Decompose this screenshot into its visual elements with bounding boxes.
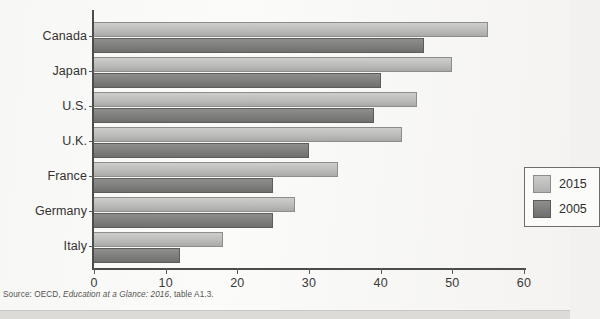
x-tick-label: 50 <box>432 276 472 290</box>
category-label: U.K. <box>62 134 87 148</box>
x-tick-label: 20 <box>217 276 257 290</box>
bar-2015 <box>94 197 295 212</box>
bar-2005 <box>94 143 309 158</box>
bar-2005 <box>94 108 374 123</box>
x-tick-mark <box>381 268 382 274</box>
bar-2005 <box>94 213 273 228</box>
category-label: Italy <box>64 239 87 253</box>
x-tick-label: 30 <box>289 276 329 290</box>
bar-2005 <box>94 178 273 193</box>
category-label: Germany <box>35 204 87 218</box>
category-label: France <box>47 169 87 183</box>
x-tick-mark <box>166 268 167 274</box>
legend-swatch-2005 <box>533 200 551 218</box>
x-tick-label: 0 <box>74 276 114 290</box>
source-note: Source: OECD, Education at a Glance: 201… <box>3 290 214 299</box>
chart-legend: 2015 2005 <box>524 167 600 227</box>
bar-2015 <box>94 127 402 142</box>
bar-2005 <box>94 38 424 53</box>
bar-2015 <box>94 92 417 107</box>
x-tick-label: 40 <box>361 276 401 290</box>
legend-swatch-2015 <box>533 175 551 193</box>
category-label: Canada <box>43 29 87 43</box>
bar-2015 <box>94 57 452 72</box>
bar-2015 <box>94 162 338 177</box>
x-tick-mark <box>452 268 453 274</box>
source-publication-title: Education at a Glance: 2016 <box>63 290 169 299</box>
x-tick-mark <box>94 268 95 274</box>
x-tick-label: 60 <box>504 276 544 290</box>
legend-label-2005: 2005 <box>559 202 587 216</box>
category-label: U.S. <box>62 99 87 113</box>
bar-chart: 0102030405060 CanadaJapanU.S.U.K.FranceG… <box>92 10 526 270</box>
x-tick-label: 10 <box>146 276 186 290</box>
x-tick-mark <box>309 268 310 274</box>
bar-2005 <box>94 73 381 88</box>
source-suffix: , table A1.3. <box>169 290 214 299</box>
x-tick-mark <box>524 268 525 274</box>
x-tick-mark <box>237 268 238 274</box>
bar-2005 <box>94 248 180 263</box>
bar-2015 <box>94 232 223 247</box>
category-label: Japan <box>52 64 87 78</box>
page-edge <box>0 310 570 319</box>
source-prefix: Source: OECD, <box>3 290 63 299</box>
legend-label-2015: 2015 <box>559 177 587 191</box>
bar-2015 <box>94 22 488 37</box>
